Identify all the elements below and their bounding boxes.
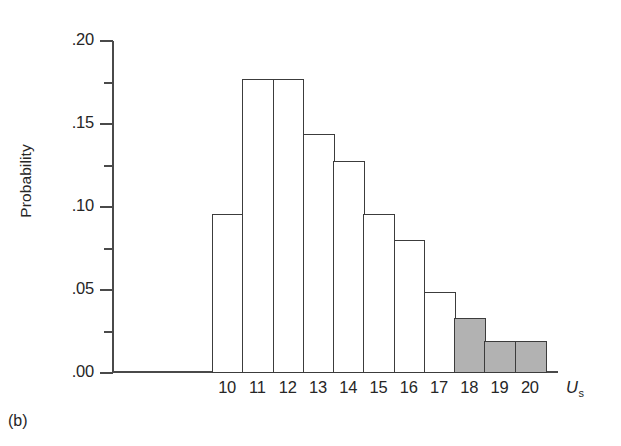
x-tick-label: 20 <box>510 378 550 397</box>
histogram-bar <box>242 79 274 373</box>
y-tick-major <box>100 372 113 374</box>
histogram-bar <box>273 79 305 373</box>
y-tick-minor <box>104 82 113 84</box>
histogram-bar <box>515 341 547 373</box>
histogram-bar <box>394 240 426 373</box>
histogram-bar <box>424 292 456 373</box>
y-tick-label: .10 <box>48 196 94 215</box>
panel-label: (b) <box>8 412 28 430</box>
histogram-bar <box>363 214 395 373</box>
y-tick-minor <box>104 331 113 333</box>
histogram-bar <box>212 214 244 373</box>
y-tick-minor <box>104 248 113 250</box>
histogram-figure: Probability .00.05.10.15.20 101112131415… <box>0 0 621 446</box>
x-axis-label-subscript: s <box>578 387 584 399</box>
y-tick-label: .00 <box>48 362 94 381</box>
y-tick-major <box>100 206 113 208</box>
y-tick-major <box>100 289 113 291</box>
y-tick-label: .20 <box>48 30 94 49</box>
histogram-bar <box>484 341 516 373</box>
y-axis-label: Probability <box>17 111 35 251</box>
histogram-bar <box>303 134 335 373</box>
y-tick-minor <box>104 165 113 167</box>
y-tick-major <box>100 40 113 42</box>
x-axis-label-base: U <box>566 378 578 396</box>
y-tick-label: .05 <box>48 279 94 298</box>
y-tick-major <box>100 123 113 125</box>
histogram-bar <box>333 161 365 373</box>
x-axis-label: Us <box>566 378 584 399</box>
histogram-bar <box>454 318 486 373</box>
y-tick-label: .15 <box>48 113 94 132</box>
plot-area <box>212 41 545 373</box>
